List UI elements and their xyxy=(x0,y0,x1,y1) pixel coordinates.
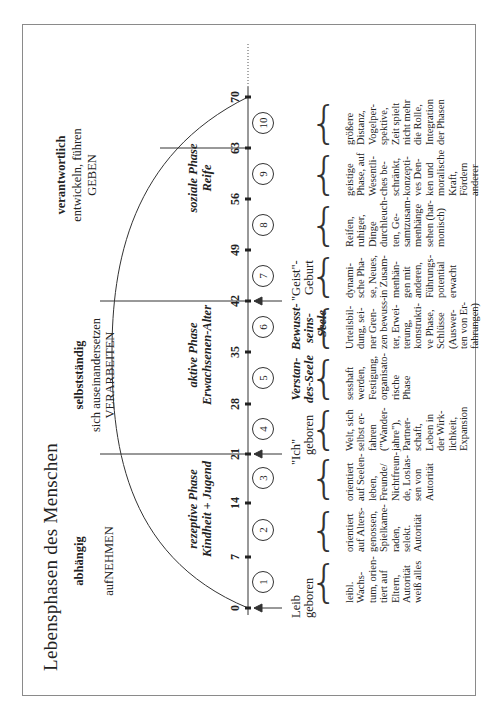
brace-10: { xyxy=(310,101,338,145)
tick-63: 63 xyxy=(228,142,243,154)
tick-14: 14 xyxy=(228,497,243,509)
period-desc-7: dynami- sche Pha- se, Neues, in Zusam- m… xyxy=(344,255,458,298)
brace-4: { xyxy=(310,407,338,451)
period-circle-3: 3 xyxy=(252,467,274,489)
brace-7: { xyxy=(310,254,338,298)
period-circle-8: 8 xyxy=(252,214,274,236)
period-circle-4: 4 xyxy=(252,418,274,440)
period-circle-1: 1 xyxy=(252,571,274,593)
brace-6: { xyxy=(310,305,338,349)
tick-21: 21 xyxy=(228,448,243,460)
period-desc-3: orientiert auf Seelen- leben, Freunde/ N… xyxy=(344,452,435,501)
rotated-document-page: Lebensphasen des Menschen abhängig aufNE… xyxy=(0,0,493,715)
brace-5: { xyxy=(310,356,338,400)
tick-7: 7 xyxy=(228,554,243,560)
tick-70: 70 xyxy=(228,91,243,103)
brace-9: { xyxy=(310,152,338,196)
period-circle-7: 7 xyxy=(252,265,274,287)
tick-0: 0 xyxy=(228,605,243,611)
period-desc-4: Welt, sich selbst er- fahren ("Wander- j… xyxy=(344,407,469,451)
period-circle-9: 9 xyxy=(252,163,274,185)
period-desc-10: größere Distanz, Vogelper- spektive, Zei… xyxy=(344,99,447,145)
period-circle-5: 5 xyxy=(252,367,274,389)
tick-42: 42 xyxy=(228,295,243,307)
tick-28: 28 xyxy=(228,398,243,410)
period-desc-1: leibl. Wachs- tum, orien- tiert auf Elte… xyxy=(344,556,424,603)
tick-49: 49 xyxy=(228,244,243,256)
brace-1: { xyxy=(310,560,338,604)
tick-56: 56 xyxy=(228,193,243,205)
brace-3: { xyxy=(310,456,338,500)
brace-2: { xyxy=(310,508,338,552)
period-circle-10: 10 xyxy=(252,112,274,134)
birth-geist-line1: "Geist"- xyxy=(289,260,303,301)
period-desc-9: geistige Phase, auf Wesentli- ches be- s… xyxy=(344,150,481,196)
period-desc-6: Urteilsbil- dung, sei- ner Gren- zen bew… xyxy=(344,297,481,349)
period-circle-6: 6 xyxy=(252,316,274,338)
period-desc-8: Reifen, ruhiger, Dinge durchleuch- ten, … xyxy=(344,197,447,247)
period-desc-5: sesshaft werden, Festigung, organisato- … xyxy=(344,353,412,400)
period-desc-2: orientiert auf Alters- genossen, Spielka… xyxy=(344,504,424,552)
soul-bewusst-line1: Bewusst- xyxy=(289,303,303,350)
birth-body-line1: Leib xyxy=(289,595,303,618)
soul-verstand-line1: Verstan- xyxy=(289,344,303,414)
period-circle-2: 2 xyxy=(252,519,274,541)
brace-8: { xyxy=(310,203,338,247)
birth-ich-line1: "Ich" xyxy=(289,439,303,465)
tick-35: 35 xyxy=(228,346,243,358)
